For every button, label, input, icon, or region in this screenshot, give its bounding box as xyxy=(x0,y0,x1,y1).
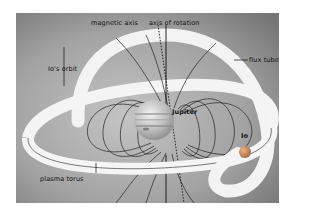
label-jupiter: Jupiter xyxy=(172,109,197,116)
label-flux-tube: flux tube xyxy=(249,57,279,64)
label-axis-of-rotation: axis of rotation xyxy=(149,20,200,27)
label-magnetic-axis: magnetic axis xyxy=(91,20,138,27)
label-ios-orbit: Io's orbit xyxy=(48,66,77,73)
label-plasma-torus: plasma torus xyxy=(40,176,84,183)
jupiter-planet xyxy=(134,100,174,140)
label-io: Io xyxy=(241,133,248,140)
io-moon xyxy=(239,146,251,158)
